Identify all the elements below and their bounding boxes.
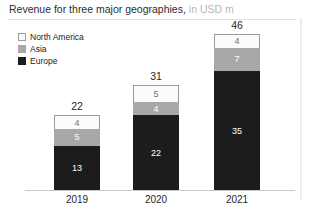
bar-total-2019: 22 bbox=[54, 100, 100, 112]
bar-segment-2020-europe[interactable]: 22 bbox=[133, 115, 179, 190]
bar-segment-2020-north-america[interactable]: 5 bbox=[133, 85, 179, 102]
bar-total-2020: 31 bbox=[133, 70, 179, 82]
x-tick-label-2021: 2021 bbox=[214, 194, 260, 205]
bar-segment-2020-asia[interactable]: 4 bbox=[133, 102, 179, 116]
bar-segment-2021-asia[interactable]: 7 bbox=[214, 48, 260, 72]
x-tick-label-2019: 2019 bbox=[54, 194, 100, 205]
bar-total-2021: 46 bbox=[214, 19, 260, 31]
chart-card: Revenue for three major geographies,in U… bbox=[0, 0, 310, 215]
bar-segment-2021-north-america[interactable]: 4 bbox=[214, 34, 260, 48]
bar-segment-2019-asia[interactable]: 5 bbox=[54, 129, 100, 146]
x-axis-line bbox=[25, 190, 295, 191]
plot-area: 22 4 5 13 2019 31 5 4 22 2020 46 4 7 35 … bbox=[0, 0, 310, 215]
bar-2021[interactable]: 4 7 35 bbox=[214, 34, 260, 190]
bar-2019[interactable]: 4 5 13 bbox=[54, 115, 100, 190]
bar-segment-2019-europe[interactable]: 13 bbox=[54, 146, 100, 190]
x-tick-label-2020: 2020 bbox=[133, 194, 179, 205]
bar-segment-2019-north-america[interactable]: 4 bbox=[54, 115, 100, 129]
bar-2020[interactable]: 5 4 22 bbox=[133, 85, 179, 190]
bar-segment-2021-europe[interactable]: 35 bbox=[214, 71, 260, 190]
right-edge-rail bbox=[300, 18, 302, 200]
